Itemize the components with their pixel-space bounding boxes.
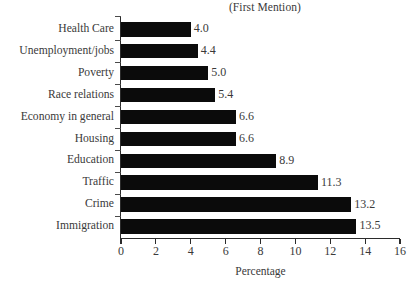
category-label: Traffic — [0, 175, 114, 189]
bar-row: 4.0 — [121, 19, 400, 41]
bar — [121, 44, 198, 58]
category-label: Race relations — [0, 88, 114, 102]
bar-row: 8.9 — [121, 150, 400, 172]
category-label: Housing — [0, 132, 114, 146]
y-tick-mark — [115, 150, 121, 151]
y-tick-mark — [115, 172, 121, 173]
y-tick-mark — [115, 84, 121, 85]
x-tick-label: 6 — [211, 244, 241, 259]
bar — [121, 175, 318, 189]
bar-row: 5.0 — [121, 63, 400, 85]
bar — [121, 88, 215, 102]
bar-row: 13.2 — [121, 194, 400, 216]
bar-row: 4.4 — [121, 41, 400, 63]
y-tick-mark — [115, 62, 121, 63]
bar — [121, 219, 356, 233]
bar — [121, 22, 191, 36]
category-label: Education — [0, 153, 114, 167]
category-label: Economy in general — [0, 110, 114, 124]
bar-value-label: 5.4 — [218, 86, 233, 102]
category-label: Crime — [0, 197, 114, 211]
x-tick-label: 4 — [176, 244, 206, 259]
x-tick-label: 14 — [350, 244, 380, 259]
plot-area: 4.04.45.05.46.66.68.911.313.213.5 — [121, 19, 400, 238]
bar — [121, 66, 208, 80]
bar-chart: (First Mention) 0246810121416 Health Car… — [0, 0, 410, 290]
bar-row: 6.6 — [121, 129, 400, 151]
y-tick-mark — [115, 106, 121, 107]
bar-value-label: 6.6 — [239, 130, 254, 146]
bar — [121, 110, 236, 124]
y-tick-mark — [115, 128, 121, 129]
chart-title: (First Mention) — [150, 1, 380, 13]
bar-value-label: 11.3 — [321, 174, 342, 190]
bar-value-label: 4.0 — [194, 20, 209, 36]
y-tick-mark — [115, 40, 121, 41]
x-tick-label: 10 — [280, 244, 310, 259]
category-label: Immigration — [0, 219, 114, 233]
y-tick-mark — [115, 16, 121, 17]
x-tick-label: 12 — [315, 244, 345, 259]
x-axis-title: Percentage — [121, 265, 400, 277]
bar-row: 11.3 — [121, 172, 400, 194]
bar-value-label: 4.4 — [201, 42, 216, 58]
x-tick-label: 8 — [246, 244, 276, 259]
bar-value-label: 6.6 — [239, 108, 254, 124]
y-tick-mark — [115, 216, 121, 217]
category-label: Poverty — [0, 66, 114, 80]
category-label: Unemployment/jobs — [0, 44, 114, 58]
x-tick-label: 16 — [385, 244, 410, 259]
bar — [121, 197, 351, 211]
x-tick-label: 2 — [141, 244, 171, 259]
x-tick-label: 0 — [106, 244, 136, 259]
category-label: Health Care — [0, 22, 114, 36]
bar-value-label: 5.0 — [211, 64, 226, 80]
bar — [121, 132, 236, 146]
bar-row: 5.4 — [121, 85, 400, 107]
bar-row: 13.5 — [121, 216, 400, 238]
y-tick-mark — [115, 194, 121, 195]
bar-value-label: 13.2 — [354, 196, 375, 212]
bar-value-label: 8.9 — [279, 152, 294, 168]
bar-value-label: 13.5 — [359, 217, 380, 233]
bar-row: 6.6 — [121, 107, 400, 129]
bar — [121, 154, 276, 168]
